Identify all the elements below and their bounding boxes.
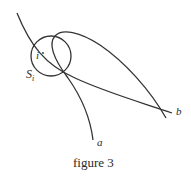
label-b: b bbox=[176, 105, 182, 117]
diagram-canvas bbox=[0, 0, 191, 178]
figure-caption: figure 3 bbox=[73, 155, 114, 171]
point-i bbox=[42, 52, 44, 54]
label-a: a bbox=[97, 136, 103, 148]
label-i: i bbox=[36, 49, 39, 61]
label-s: Si bbox=[26, 67, 34, 83]
curve-b bbox=[17, 13, 172, 113]
label-s-sub: i bbox=[32, 74, 34, 83]
